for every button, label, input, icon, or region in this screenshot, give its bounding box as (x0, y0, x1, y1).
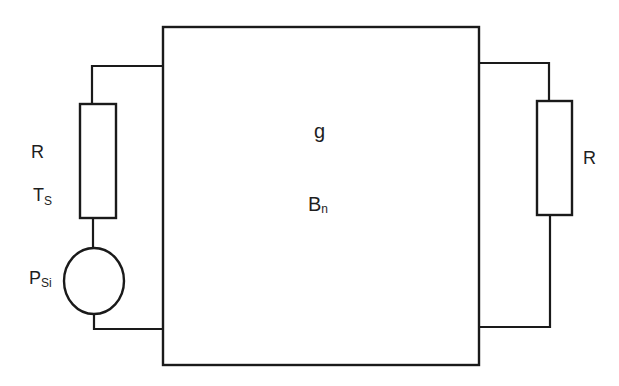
wire-input-top (92, 66, 163, 104)
source-power-label: PSi (29, 268, 52, 290)
source-temperature-label: TS (33, 185, 52, 208)
bandwidth-sub: n (321, 202, 328, 216)
load-resistor-label: R (583, 148, 596, 168)
source-temperature-sub: S (44, 194, 52, 208)
circuit-diagram: R TS PSi g Bn R (0, 0, 619, 386)
wire-input-bottom (94, 314, 164, 329)
wire-output-top (479, 63, 549, 101)
bandwidth-main: B (308, 193, 321, 215)
source-power-main: P (29, 268, 41, 288)
wire-output-bottom (480, 215, 550, 327)
source-resistor (80, 104, 116, 218)
source-temperature-main: T (33, 185, 44, 205)
load-resistor (537, 101, 572, 215)
gain-label: g (314, 120, 325, 142)
signal-source (64, 248, 124, 314)
source-power-sub: Si (41, 276, 52, 290)
source-resistor-label: R (31, 142, 44, 162)
